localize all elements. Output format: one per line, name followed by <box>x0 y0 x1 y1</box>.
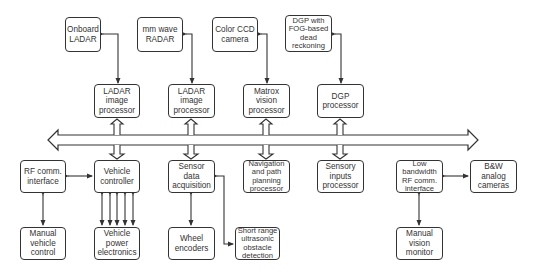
navigation-path-planning-block: Navigation and path planning processor <box>243 160 290 193</box>
color-ccd-camera-block: Color CCD camera <box>212 17 258 52</box>
dgp-processor-block: DGP processor <box>317 84 364 118</box>
vehicle-power-electronics-block: Vehicle power electronics <box>94 227 140 260</box>
processor-bus-connectors <box>111 119 346 135</box>
bus-module-connectors <box>110 145 347 159</box>
wheel-encoders-block: Wheel encoders <box>168 227 215 260</box>
sensor-data-acquisition-block: Sensor data acquisition <box>168 160 215 193</box>
onboard-ladar-block: Onboard LADAR <box>65 17 101 52</box>
manual-vision-monitor-block: Manual vision monitor <box>396 227 443 260</box>
short-range-ultrasonic-block: Short range ultrasonic obstacle detectio… <box>235 227 280 260</box>
ladar-image-processor-1-block: LADAR image processor <box>94 84 140 118</box>
matrox-vision-processor-block: Matrox vision processor <box>243 84 290 118</box>
sensory-inputs-processor-block: Sensory inputs processor <box>317 160 364 193</box>
low-bandwidth-rf-block: Low bandwidth RF comm. interface <box>396 160 443 193</box>
vehicle-controller-block: Vehicle controller <box>94 160 140 193</box>
manual-vehicle-control-block: Manual vehicle control <box>20 227 66 260</box>
rf-comm-interface-block: RF comm. interface <box>20 160 66 193</box>
ladar-image-processor-2-block: LADAR image processor <box>168 84 215 118</box>
bw-analog-cameras-block: B&W analog cameras <box>470 160 517 193</box>
dgp-fog-block: DGP with FOG-based dead reckoning <box>285 15 332 52</box>
mm-wave-radar-block: mm wave RADAR <box>137 17 183 52</box>
